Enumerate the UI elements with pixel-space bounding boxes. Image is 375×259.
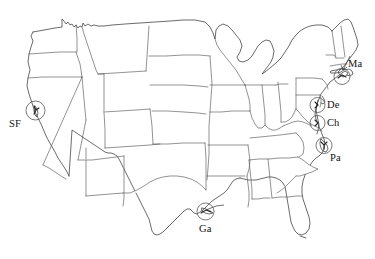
border-al-ga — [268, 159, 272, 198]
border-wy-co — [104, 109, 150, 112]
border-mt-wy — [98, 71, 146, 74]
border-nc-sc — [296, 157, 318, 176]
border-md-de — [320, 95, 321, 107]
border-in-ky — [265, 125, 283, 130]
border-ny-pa — [296, 78, 322, 79]
border-wy-east — [146, 26, 149, 71]
border-nh-me — [341, 26, 345, 57]
border-ia-mo — [210, 111, 250, 112]
border-nj-ny — [322, 79, 328, 89]
border-ok-east — [205, 143, 206, 190]
border-co-nm — [105, 144, 160, 148]
marker-label-ch: Ch — [327, 118, 339, 129]
border-ky-tn — [250, 133, 296, 138]
border-ok-tx — [123, 176, 206, 193]
border-la-ms — [247, 176, 249, 207]
border-nv-ut — [78, 120, 86, 160]
border-wa-or — [29, 52, 76, 54]
marker-de-group[interactable] — [310, 98, 325, 113]
marker-ga-circle[interactable] — [197, 203, 214, 220]
border-ca-az — [43, 165, 66, 179]
border-tn-ms-al-ga — [249, 157, 298, 160]
marker-ga-leader — [206, 205, 224, 210]
border-ut-co — [104, 74, 105, 148]
border-ks-ok — [153, 143, 205, 144]
western-state-borders — [28, 25, 160, 206]
us-map-figure: SF Ga Ma De Ch Pa — [0, 0, 375, 259]
national-outline-group — [27, 19, 358, 235]
border-ia-il — [245, 85, 250, 111]
border-il-in — [262, 85, 265, 125]
border-nm-south — [86, 193, 123, 196]
border-id-mt-wy — [82, 27, 104, 74]
border-sd-ne — [150, 85, 208, 87]
border-ne-ks — [152, 111, 206, 114]
border-ny-vt-ma — [326, 55, 344, 58]
great-lakes-state-borders — [215, 39, 296, 130]
marker-pa-tick — [321, 142, 327, 149]
border-ca-nv — [43, 77, 82, 165]
marker-sf-group[interactable] — [26, 101, 45, 120]
border-ut-az-nm — [78, 156, 124, 160]
northern-border-outline — [33, 19, 332, 74]
border-co-ks-ok — [150, 109, 153, 144]
eastern-state-borders — [249, 26, 347, 199]
border-or-ca — [28, 77, 82, 78]
border-ms-al — [249, 160, 252, 199]
border-ar-ms — [247, 145, 250, 176]
border-vt-nh — [332, 31, 336, 58]
border-id-nv-ut — [82, 77, 86, 120]
site-markers-group — [26, 56, 350, 220]
border-wa-id — [76, 25, 77, 52]
border-nd-sd — [149, 55, 210, 56]
us-map-graphic — [0, 0, 375, 259]
border-oh-wv — [281, 109, 296, 122]
border-mi-oh-in — [276, 84, 288, 85]
border-in-oh — [278, 82, 281, 122]
border-mo-river-east — [207, 56, 212, 180]
florida-keys-detail — [300, 236, 306, 238]
border-or-id — [76, 52, 82, 77]
marker-label-pa: Pa — [330, 153, 341, 164]
marker-label-de: De — [327, 100, 339, 111]
border-sc-ga — [277, 176, 296, 193]
border-al-fl — [252, 198, 270, 199]
marker-label-ma: Ma — [348, 59, 362, 70]
border-il-ky — [250, 111, 265, 128]
border-tn-nc — [296, 133, 304, 157]
marker-ch-tick — [315, 120, 318, 126]
marker-label-sf: SF — [9, 119, 21, 130]
border-nm-tx — [123, 156, 124, 206]
border-mn-wi — [215, 39, 245, 85]
marker-label-ga: Ga — [199, 224, 211, 235]
